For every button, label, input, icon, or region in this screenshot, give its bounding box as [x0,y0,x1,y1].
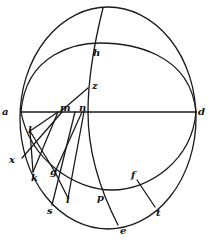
lower-inner-arc [21,112,196,190]
label-t: t [156,208,161,218]
line-n-s [52,112,75,205]
label-l: l [28,125,32,135]
label-h: h [93,48,100,58]
label-p: p [97,193,104,203]
label-e: e [120,226,126,236]
label-n: n [79,103,86,113]
geometric-diagram [0,0,210,242]
outer-circle [20,7,196,229]
upper-inner-arc [21,43,196,112]
label-x: x [9,155,15,165]
label-f: f [131,170,135,180]
label-z: z [92,81,98,91]
line-l-k [30,131,33,172]
label-g: g [50,167,57,177]
label-k: k [31,173,38,183]
label-m: m [60,103,71,113]
label-d: d [198,107,205,117]
label-a: a [2,107,8,117]
line-f-t [137,180,155,207]
label-s: s [47,206,53,216]
label-i: i [66,195,70,205]
